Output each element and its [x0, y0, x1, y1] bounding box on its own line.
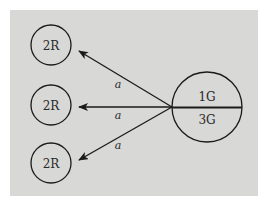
edge-2-label: a	[115, 109, 122, 122]
target-node-3-label: 2R	[43, 157, 61, 171]
target-node-1-label: 2R	[43, 39, 61, 53]
source-node-bottom-label: 3G	[198, 113, 215, 127]
edge-1: a	[79, 51, 172, 107]
target-node-2: 2R	[31, 85, 71, 125]
target-node-1: 2R	[31, 25, 71, 65]
edge-1-label: a	[115, 78, 122, 91]
source-node-top-label: 1G	[198, 90, 215, 104]
target-node-3: 2R	[31, 143, 71, 183]
arrow-icon	[79, 107, 172, 160]
arrow-icon	[79, 51, 172, 107]
edge-3-label: a	[115, 139, 122, 152]
source-node: 1G 3G	[172, 72, 242, 142]
diagram-canvas: 2R 2R 2R 1G 3G a a a	[0, 0, 267, 205]
edge-3: a	[79, 107, 172, 160]
target-node-2-label: 2R	[43, 99, 61, 113]
